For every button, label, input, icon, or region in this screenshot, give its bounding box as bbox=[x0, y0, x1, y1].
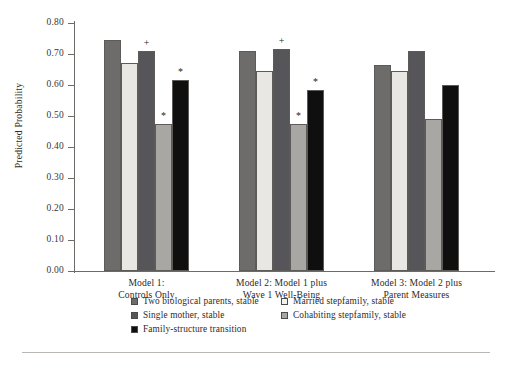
y-axis-label-wrap: 0.00 bbox=[0, 266, 64, 276]
legend-item: Single mother, stable bbox=[131, 311, 281, 320]
bar bbox=[290, 124, 307, 271]
y-axis-label-wrap: 0.80 bbox=[0, 18, 64, 28]
legend-row: Single mother, stableCohabiting stepfami… bbox=[131, 309, 431, 323]
bar bbox=[239, 51, 256, 271]
legend-swatch-icon bbox=[131, 326, 138, 333]
significance-marker: * bbox=[172, 67, 189, 77]
legend-swatch-icon bbox=[281, 312, 288, 319]
bar bbox=[408, 51, 425, 271]
legend-label: Two biological parents, stable bbox=[143, 297, 259, 306]
legend-swatch-icon bbox=[281, 298, 288, 305]
y-axis-tick-label: 0.40 bbox=[30, 142, 64, 152]
bottom-divider bbox=[22, 352, 490, 353]
significance-marker: * bbox=[155, 111, 172, 121]
bar-group-container: +**+** bbox=[74, 23, 495, 271]
y-axis-label-wrap: 0.40 bbox=[0, 142, 64, 152]
bar bbox=[391, 71, 408, 271]
significance-marker: + bbox=[273, 36, 290, 46]
legend-row: Two biological parents, stableMarried st… bbox=[131, 295, 431, 309]
y-axis-label-wrap: 0.70 bbox=[0, 49, 64, 59]
bar bbox=[155, 124, 172, 271]
significance-marker: * bbox=[290, 111, 307, 121]
bar bbox=[104, 40, 121, 271]
y-axis-tick-label: 0.50 bbox=[30, 111, 64, 121]
legend-item: Married stepfamily, stable bbox=[281, 297, 431, 306]
legend-row: Family-structure transition bbox=[131, 323, 431, 337]
legend-label: Cohabiting stepfamily, stable bbox=[293, 311, 406, 320]
legend-item: Family-structure transition bbox=[131, 325, 291, 334]
y-axis-tick-label: 0.70 bbox=[30, 49, 64, 59]
bar bbox=[425, 119, 442, 271]
x-axis-group-label-line: Model 3: Model 2 plus bbox=[342, 277, 492, 289]
y-axis-label-wrap: 0.10 bbox=[0, 235, 64, 245]
y-axis-label-wrap: 0.50 bbox=[0, 111, 64, 121]
x-axis-group-label-line: Model 1: bbox=[72, 277, 222, 289]
x-axis-line bbox=[74, 271, 495, 272]
bar bbox=[138, 51, 155, 271]
bar bbox=[307, 90, 324, 271]
legend-label: Family-structure transition bbox=[143, 325, 246, 334]
significance-marker: + bbox=[138, 38, 155, 48]
bar bbox=[121, 63, 138, 271]
x-axis-group-label-line: Model 2: Model 1 plus bbox=[207, 277, 357, 289]
bar bbox=[273, 49, 290, 271]
legend-label: Married stepfamily, stable bbox=[293, 297, 394, 306]
y-axis-tick-label: 0.30 bbox=[30, 173, 64, 183]
significance-marker: * bbox=[307, 77, 324, 87]
chart-legend: Two biological parents, stableMarried st… bbox=[131, 295, 431, 337]
legend-item: Two biological parents, stable bbox=[131, 297, 281, 306]
bar bbox=[256, 71, 273, 271]
y-axis-tick-label: 0.20 bbox=[30, 204, 64, 214]
y-axis-label-wrap: 0.60 bbox=[0, 80, 64, 90]
y-axis-label-wrap: 0.20 bbox=[0, 204, 64, 214]
y-axis-tick-label: 0.10 bbox=[30, 235, 64, 245]
y-axis-label-wrap: 0.30 bbox=[0, 173, 64, 183]
bar bbox=[374, 65, 391, 271]
figure: Predicted Probability 0.800.700.600.500.… bbox=[0, 0, 513, 366]
bar bbox=[442, 85, 459, 271]
legend-swatch-icon bbox=[131, 298, 138, 305]
y-axis-tick-label: 0.00 bbox=[30, 266, 64, 276]
y-axis-tick bbox=[68, 271, 74, 272]
bar bbox=[172, 80, 189, 271]
y-axis-tick-label: 0.80 bbox=[30, 18, 64, 28]
legend-item: Cohabiting stepfamily, stable bbox=[281, 311, 431, 320]
legend-label: Single mother, stable bbox=[143, 311, 225, 320]
y-axis-tick-label: 0.60 bbox=[30, 80, 64, 90]
legend-swatch-icon bbox=[131, 312, 138, 319]
